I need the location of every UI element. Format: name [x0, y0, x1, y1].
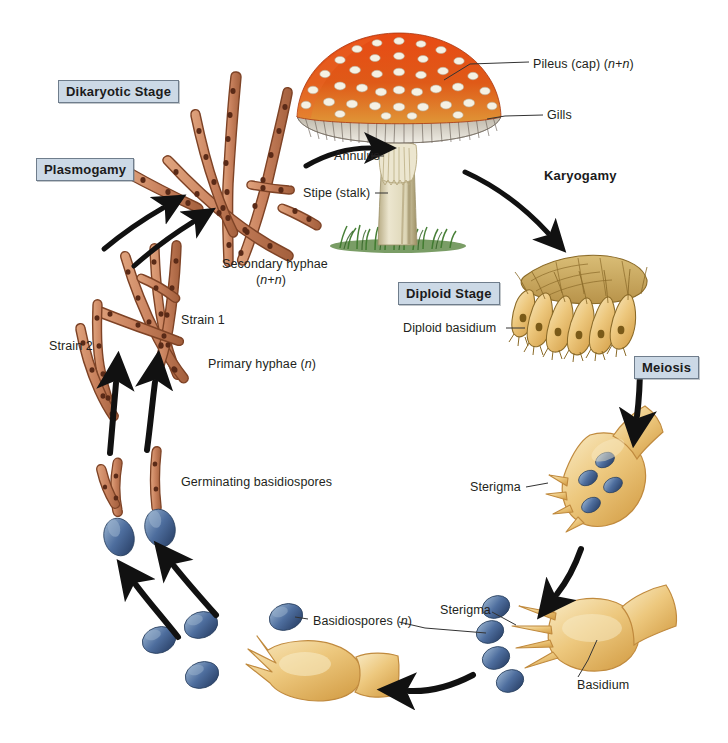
arrow-karyogamy — [465, 172, 548, 233]
arrow-layer — [0, 0, 728, 743]
part-label-strain-1: Strain 1 — [181, 313, 225, 327]
part-label-pileus: Pileus (cap) (n+n) — [533, 57, 634, 71]
part-label-germinating-basidiospores: Germinating basidiospores — [181, 475, 332, 489]
arrow-plasmogamy-1 — [104, 208, 163, 249]
arrow-germinate-right — [174, 566, 216, 615]
part-label-primary-hyphae: Primary hyphae (n) — [208, 357, 316, 371]
stage-label-plasmogamy: Plasmogamy — [36, 158, 134, 181]
arrow-primary-1 — [110, 383, 116, 453]
part-label-sterigma-bottom: Sterigma — [440, 603, 491, 617]
arrow-spore-release — [409, 675, 473, 691]
arrow-plasmogamy-2 — [134, 222, 193, 266]
part-label-annulus: Annulus — [334, 149, 380, 163]
arrow-basidium-down — [557, 549, 581, 594]
stage-label-karyogamy: Karyogamy — [544, 168, 617, 183]
leader-sterigma-bot2 — [399, 622, 486, 633]
part-label-basidium-bottom: Basidium — [577, 678, 629, 692]
part-label-basidiospores: Basidiospores (n) — [313, 614, 412, 628]
leader-gills — [487, 115, 543, 119]
leader-basidiospores — [295, 617, 308, 619]
leader-sterigma-mid — [526, 483, 548, 487]
part-label-secondary-hyphae-ploidy: (n+n) — [256, 273, 286, 287]
part-label-sterigma-middle: Sterigma — [470, 480, 521, 494]
stage-label-meiosis: Meiosis — [634, 356, 699, 379]
arrow-germinate-left — [136, 585, 178, 637]
life-cycle-diagram: Dikaryotic Stage Plasmogamy Karyogamy Di… — [0, 0, 728, 743]
arrow-primary-2 — [147, 382, 155, 450]
part-label-secondary-hyphae: Secondary hyphae — [222, 257, 328, 271]
part-label-diploid-basidium: Diploid basidium — [403, 321, 496, 335]
stage-label-dikaryotic: Dikaryotic Stage — [58, 80, 179, 103]
part-label-gills: Gills — [547, 108, 572, 122]
leader-sterigma-bot — [492, 612, 516, 625]
leader-basidium-bot — [578, 640, 597, 677]
part-label-stipe: Stipe (stalk) — [303, 186, 370, 200]
stage-label-diploid: Diploid Stage — [398, 282, 500, 305]
part-label-strain-2: Strain 2 — [49, 339, 93, 353]
leader-pileus — [444, 62, 529, 80]
